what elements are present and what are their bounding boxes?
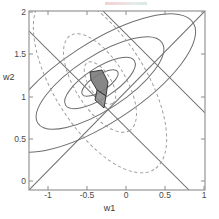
x-axis-title: w1 — [0, 203, 219, 213]
y-tick-label-3: 1.5 — [2, 49, 26, 59]
y-axis-title: w2 — [3, 72, 15, 82]
scan-artifact — [105, 2, 147, 5]
x-tick-label-4: 1 — [194, 190, 214, 200]
y-tick-label-1: 0.5 — [2, 134, 26, 144]
x-tick-label-1: -0.5 — [74, 190, 100, 200]
x-tick-label-3: 0.5 — [152, 190, 178, 200]
x-tick-label-0: -1 — [38, 190, 58, 200]
y-tick-label-2: 1 — [4, 92, 26, 102]
plot-canvas — [0, 0, 219, 219]
y-tick-label-4: 2 — [4, 7, 26, 17]
y-tick-label-0: 0 — [4, 176, 26, 186]
contour-plot-figure: -1 -0.5 0 0.5 1 0 0.5 1 1.5 2 w1 w2 — [0, 0, 219, 219]
x-tick-label-2: 0 — [116, 190, 136, 200]
